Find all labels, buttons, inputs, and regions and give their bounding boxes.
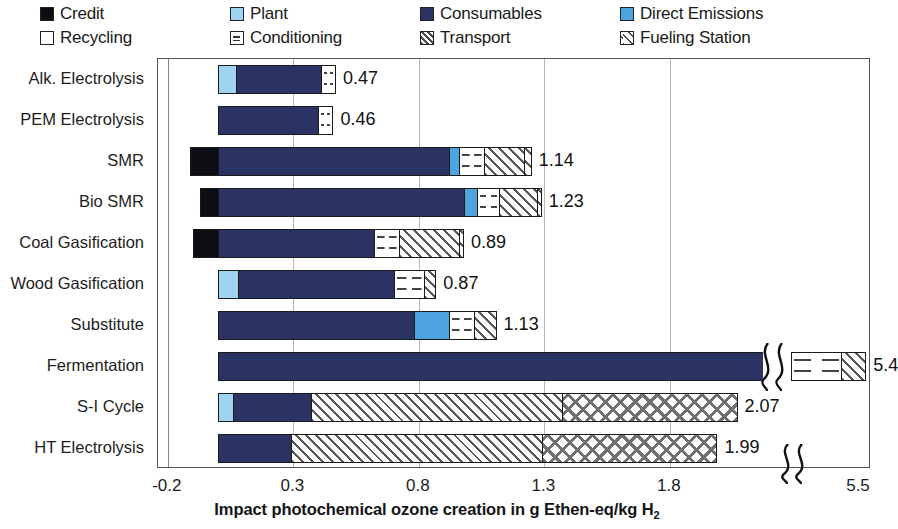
bar-value-label: 2.07 bbox=[745, 394, 780, 418]
bar-value-label: 5.4 bbox=[873, 353, 898, 377]
axis-break-squiggle-fermentation bbox=[756, 343, 790, 391]
x-axis-tick-label: 0.3 bbox=[280, 474, 304, 498]
bar-value-label: 1.13 bbox=[504, 312, 539, 336]
x-axis-title-text: Impact photochemical ozone creation in g… bbox=[214, 500, 653, 518]
x-axis-title-subscript: 2 bbox=[654, 509, 660, 521]
x-axis-tick-label: 1.3 bbox=[531, 474, 555, 498]
x-axis-tick-label: 1.8 bbox=[657, 474, 681, 498]
x-axis-tick-label: -0.2 bbox=[152, 474, 181, 498]
bar-value-label: 1.14 bbox=[539, 148, 574, 172]
bar-value-label: 0.89 bbox=[471, 230, 506, 254]
bar-value-label: 0.87 bbox=[443, 271, 478, 295]
bar-value-label: 1.99 bbox=[724, 435, 759, 459]
x-axis-ticks: -0.20.30.81.31.85.5 bbox=[0, 474, 874, 500]
x-axis-tick-label: 0.8 bbox=[406, 474, 430, 498]
x-axis-title: Impact photochemical ozone creation in g… bbox=[0, 500, 874, 521]
bar-value-label: 1.23 bbox=[549, 189, 584, 213]
bar-value-label: 0.47 bbox=[343, 66, 378, 90]
x-axis-tick-label: 5.5 bbox=[846, 474, 870, 498]
bar-value-label: 0.46 bbox=[340, 107, 375, 131]
